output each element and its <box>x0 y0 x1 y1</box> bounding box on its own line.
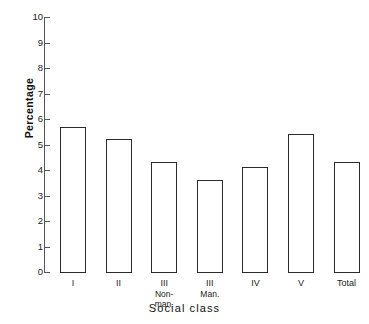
bar-base-total <box>334 272 360 273</box>
y-tick-mark-9 <box>45 43 50 44</box>
bar-class-iii-man <box>197 180 223 272</box>
y-tick-mark-1 <box>45 247 50 248</box>
y-tick-label-5: 5 <box>23 140 43 149</box>
y-tick-mark-4 <box>45 170 50 171</box>
y-tick-mark-3 <box>45 196 50 197</box>
bar-base-class-i <box>60 272 86 273</box>
bar-class-i <box>60 127 86 272</box>
bar-base-class-ii <box>106 272 132 273</box>
bar-base-class-v <box>288 272 314 273</box>
x-tick-label-class-iii-non-man: III <box>139 278 189 288</box>
y-tick-mark-0 <box>45 272 50 273</box>
bar-base-class-iii-man <box>197 272 223 273</box>
y-tick-label-6: 6 <box>23 114 43 123</box>
bar-class-iv <box>242 167 268 272</box>
bar-class-iii-non-man <box>151 162 177 272</box>
y-tick-mark-7 <box>45 94 50 95</box>
y-tick-mark-5 <box>45 145 50 146</box>
y-tick-mark-2 <box>45 221 50 222</box>
x-axis-title: Social class <box>0 302 369 314</box>
bar-chart-figure: Percentage 0 1 2 3 4 5 6 7 8 9 10 <box>0 0 369 324</box>
x-tick-label-class-i: I <box>48 278 98 288</box>
y-tick-mark-10 <box>45 17 50 18</box>
plot-area: 0 1 2 3 4 5 6 7 8 9 10 <box>0 0 369 324</box>
y-tick-label-0: 0 <box>23 267 43 276</box>
y-tick-label-2: 2 <box>23 216 43 225</box>
y-tick-label-7: 7 <box>23 89 43 98</box>
x-tick-label-class-ii: II <box>94 278 144 288</box>
bar-total <box>334 162 360 272</box>
bar-base-class-iv <box>242 272 268 273</box>
x-tick-sublabel-class-iii-man: Man. <box>185 290 235 300</box>
y-tick-label-3: 3 <box>23 191 43 200</box>
y-tick-label-10: 10 <box>23 12 43 21</box>
y-tick-label-8: 8 <box>23 63 43 72</box>
y-tick-label-9: 9 <box>23 38 43 47</box>
x-tick-label-total: Total <box>322 278 369 288</box>
y-tick-label-4: 4 <box>23 165 43 174</box>
x-tick-label-class-iii-man: III <box>185 278 235 288</box>
y-tick-mark-8 <box>45 68 50 69</box>
bar-class-v <box>288 134 314 272</box>
x-tick-label-class-iv: IV <box>230 278 280 288</box>
y-tick-mark-6 <box>45 119 50 120</box>
y-tick-label-1: 1 <box>23 242 43 251</box>
bar-base-class-iii-non-man <box>151 272 177 273</box>
x-tick-label-class-v: V <box>276 278 326 288</box>
bar-class-ii <box>106 139 132 272</box>
